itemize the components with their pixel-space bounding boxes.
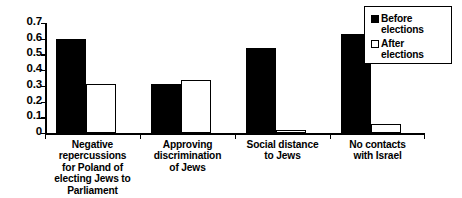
category-label-3-line-1: with Israel [330,150,425,161]
category-label-1-line-1: discrimination [140,150,235,161]
y-tick-label-6: 0.1 [8,110,42,121]
chart-legend: Before elections After elections [364,6,452,64]
bar-after-1 [181,80,211,133]
category-label-3: No contacts with Israel [330,139,425,162]
category-label-1: Approving discrimination of Jews [140,139,235,173]
category-label-3-line-0: No contacts [330,139,425,150]
y-axis-tick-labels: 0.7 0.6 0.5 0.4 0.3 0.2 0.1 0 [8,16,42,134]
category-label-0-line-1: repercussions [45,150,140,161]
hollow-square-icon [371,40,379,48]
y-tick-label-7: 0 [8,126,42,137]
category-label-2-line-0: Social distance [235,139,330,150]
bar-after-3 [371,124,401,133]
legend-label-before-elections: Before elections [381,13,424,36]
x-axis-category-labels: Negative repercussions for Poland of ele… [45,139,425,197]
category-label-0-line-4: Parliament [45,185,140,196]
y-tick-label-3: 0.4 [8,63,42,74]
bar-before-2 [246,48,276,133]
category-label-0: Negative repercussions for Poland of ele… [45,139,140,196]
category-label-2-line-1: to Jews [235,150,330,161]
category-label-0-line-0: Negative [45,139,140,150]
y-tick-label-4: 0.3 [8,79,42,90]
category-label-0-line-3: electing Jews to [45,173,140,184]
y-tick-label-2: 0.5 [8,47,42,58]
legend-entry-before-elections: Before elections [371,13,424,36]
y-tick-label-5: 0.2 [8,95,42,106]
filled-square-icon [371,15,379,23]
category-label-1-line-2: of Jews [140,162,235,173]
category-label-1-line-0: Approving [140,139,235,150]
y-tick-label-0: 0.7 [8,16,42,27]
category-label-2: Social distance to Jews [235,139,330,162]
legend-entry-after-elections: After elections [371,38,424,61]
legend-label-after-elections: After elections [381,38,424,61]
bar-before-0 [56,39,86,133]
bar-after-0 [86,84,116,133]
grouped-bar-chart: 0.7 0.6 0.5 0.4 0.3 0.2 0.1 0 Negative [0,0,462,198]
bar-before-1 [151,84,181,133]
category-label-0-line-2: for Poland of [45,162,140,173]
y-tick-label-1: 0.6 [8,32,42,43]
